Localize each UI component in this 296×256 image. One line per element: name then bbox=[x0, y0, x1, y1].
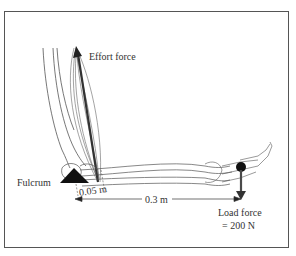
load-arrow bbox=[236, 170, 246, 200]
fulcrum-label: Fulcrum bbox=[17, 177, 51, 188]
biceps-muscle bbox=[70, 48, 100, 182]
load-force-label: Load force bbox=[218, 207, 262, 218]
effort-force-label: Effort force bbox=[89, 51, 136, 62]
hand-bones bbox=[205, 142, 272, 183]
load-force-value: = 200 N bbox=[222, 220, 255, 231]
load-arm-label: 0.3 m bbox=[145, 194, 168, 205]
